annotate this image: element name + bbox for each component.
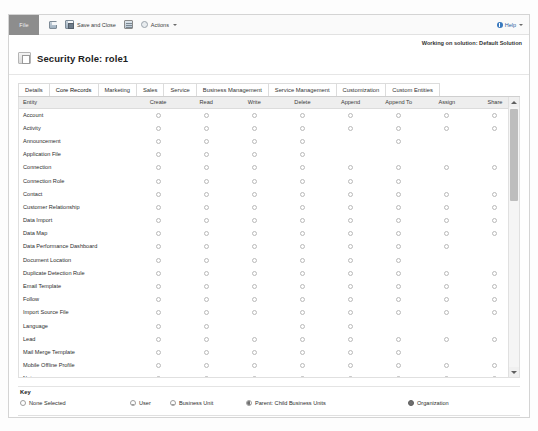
privilege-circle-icon[interactable] bbox=[252, 231, 257, 236]
privilege-circle-icon[interactable] bbox=[492, 310, 497, 315]
privilege-cell-append-to[interactable] bbox=[375, 214, 423, 227]
privilege-circle-icon[interactable] bbox=[444, 271, 449, 276]
privilege-circle-icon[interactable] bbox=[204, 126, 209, 131]
privilege-circle-icon[interactable] bbox=[300, 244, 305, 249]
scroll-up-button[interactable] bbox=[509, 97, 519, 107]
privilege-circle-icon[interactable] bbox=[300, 363, 305, 368]
privilege-cell-assign[interactable] bbox=[423, 332, 471, 345]
privilege-circle-icon[interactable] bbox=[492, 337, 497, 342]
privilege-circle-icon[interactable] bbox=[348, 350, 353, 355]
privilege-cell-read[interactable] bbox=[182, 174, 230, 187]
column-header-assign[interactable]: Assign bbox=[423, 97, 471, 108]
privilege-cell-write[interactable] bbox=[230, 293, 278, 306]
privilege-circle-icon[interactable] bbox=[156, 297, 161, 302]
privilege-cell-append-to[interactable] bbox=[375, 345, 423, 358]
tab-business-management[interactable]: Business Management bbox=[196, 83, 269, 96]
privilege-circle-icon[interactable] bbox=[252, 113, 257, 118]
privilege-cell-delete[interactable] bbox=[278, 372, 326, 378]
privilege-circle-icon[interactable] bbox=[156, 218, 161, 223]
privilege-cell-create[interactable] bbox=[134, 293, 182, 306]
privilege-circle-icon[interactable] bbox=[252, 126, 257, 131]
privilege-circle-icon[interactable] bbox=[396, 376, 401, 378]
privilege-cell-create[interactable] bbox=[134, 214, 182, 227]
privilege-circle-icon[interactable] bbox=[348, 165, 353, 170]
privilege-circle-icon[interactable] bbox=[156, 350, 161, 355]
privilege-cell-assign[interactable] bbox=[423, 293, 471, 306]
privilege-cell-append[interactable] bbox=[327, 345, 375, 358]
privilege-cell-read[interactable] bbox=[182, 345, 230, 358]
tab-service[interactable]: Service bbox=[163, 83, 196, 96]
privilege-circle-icon[interactable] bbox=[300, 271, 305, 276]
privilege-cell-append-to[interactable] bbox=[375, 121, 423, 134]
privilege-cell-write[interactable] bbox=[230, 266, 278, 279]
privilege-cell-read[interactable] bbox=[182, 332, 230, 345]
privilege-circle-icon[interactable] bbox=[300, 350, 305, 355]
privilege-circle-icon[interactable] bbox=[204, 179, 209, 184]
privilege-circle-icon[interactable] bbox=[156, 231, 161, 236]
privilege-circle-icon[interactable] bbox=[444, 337, 449, 342]
privilege-circle-icon[interactable] bbox=[252, 350, 257, 355]
privilege-cell-assign[interactable] bbox=[423, 306, 471, 319]
privilege-cell-append[interactable] bbox=[327, 240, 375, 253]
privilege-circle-icon[interactable] bbox=[300, 113, 305, 118]
privilege-circle-icon[interactable] bbox=[492, 363, 497, 368]
privilege-circle-icon[interactable] bbox=[252, 284, 257, 289]
privilege-circle-icon[interactable] bbox=[300, 192, 305, 197]
save-button[interactable] bbox=[45, 15, 61, 35]
privilege-cell-read[interactable] bbox=[182, 306, 230, 319]
privilege-cell-read[interactable] bbox=[182, 227, 230, 240]
privilege-circle-icon[interactable] bbox=[492, 205, 497, 210]
privilege-cell-append-to[interactable] bbox=[375, 227, 423, 240]
privilege-circle-icon[interactable] bbox=[204, 310, 209, 315]
privilege-cell-delete[interactable] bbox=[278, 200, 326, 213]
vertical-scrollbar[interactable] bbox=[508, 97, 519, 377]
tab-details[interactable]: Details bbox=[18, 83, 50, 96]
file-tab[interactable]: File bbox=[9, 15, 39, 35]
privilege-cell-read[interactable] bbox=[182, 253, 230, 266]
privilege-cell-create[interactable] bbox=[134, 332, 182, 345]
privilege-circle-icon[interactable] bbox=[396, 363, 401, 368]
privilege-cell-delete[interactable] bbox=[278, 306, 326, 319]
privilege-cell-assign[interactable] bbox=[423, 227, 471, 240]
privilege-circle-icon[interactable] bbox=[348, 271, 353, 276]
privilege-circle-icon[interactable] bbox=[348, 258, 353, 263]
privilege-cell-append[interactable] bbox=[327, 372, 375, 378]
privilege-cell-delete[interactable] bbox=[278, 161, 326, 174]
privilege-cell-assign[interactable] bbox=[423, 359, 471, 372]
privilege-circle-icon[interactable] bbox=[252, 139, 257, 144]
privilege-cell-delete[interactable] bbox=[278, 174, 326, 187]
privilege-cell-delete[interactable] bbox=[278, 253, 326, 266]
tab-sales[interactable]: Sales bbox=[136, 83, 165, 96]
privilege-cell-read[interactable] bbox=[182, 279, 230, 292]
privilege-cell-write[interactable] bbox=[230, 240, 278, 253]
privilege-cell-create[interactable] bbox=[134, 279, 182, 292]
privilege-circle-icon[interactable] bbox=[444, 126, 449, 131]
privilege-circle-icon[interactable] bbox=[348, 310, 353, 315]
privilege-cell-write[interactable] bbox=[230, 200, 278, 213]
privilege-cell-read[interactable] bbox=[182, 108, 230, 121]
privilege-circle-icon[interactable] bbox=[300, 218, 305, 223]
privilege-circle-icon[interactable] bbox=[444, 205, 449, 210]
privilege-circle-icon[interactable] bbox=[300, 376, 305, 378]
privilege-cell-append-to[interactable] bbox=[375, 253, 423, 266]
privilege-cell-create[interactable] bbox=[134, 161, 182, 174]
privilege-circle-icon[interactable] bbox=[492, 376, 497, 378]
privilege-cell-assign[interactable] bbox=[423, 372, 471, 378]
privilege-circle-icon[interactable] bbox=[348, 376, 353, 378]
privilege-cell-append[interactable] bbox=[327, 214, 375, 227]
privilege-circle-icon[interactable] bbox=[252, 218, 257, 223]
privilege-cell-create[interactable] bbox=[134, 174, 182, 187]
privilege-circle-icon[interactable] bbox=[204, 284, 209, 289]
privilege-circle-icon[interactable] bbox=[300, 337, 305, 342]
privilege-cell-append[interactable] bbox=[327, 319, 375, 332]
privilege-circle-icon[interactable] bbox=[300, 258, 305, 263]
privilege-circle-icon[interactable] bbox=[444, 165, 449, 170]
privilege-cell-append[interactable] bbox=[327, 200, 375, 213]
privilege-cell-write[interactable] bbox=[230, 227, 278, 240]
privilege-cell-read[interactable] bbox=[182, 359, 230, 372]
privilege-circle-icon[interactable] bbox=[204, 231, 209, 236]
privilege-cell-create[interactable] bbox=[134, 121, 182, 134]
privilege-circle-icon[interactable] bbox=[252, 192, 257, 197]
privilege-circle-icon[interactable] bbox=[396, 310, 401, 315]
privilege-cell-append-to[interactable] bbox=[375, 306, 423, 319]
